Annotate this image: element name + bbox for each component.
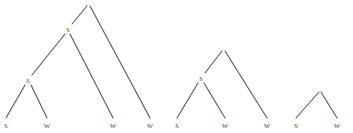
tree-branch [321,92,337,118]
tree-leaf-label: s [4,121,8,130]
tree-leaf-label: s [175,121,179,130]
tree-branch [32,34,65,75]
tree-branch [204,83,225,118]
tree-leaf-label: w [222,121,229,130]
tree-branches-layer [0,0,353,133]
tree-branch [70,34,113,118]
tree-leaf-label: s [294,121,298,130]
tree-branch [296,92,319,118]
tree-node-label: s [199,74,203,83]
tree-branch [205,51,222,73]
tree-leaf-label: w [264,121,271,130]
tree-branch [177,83,198,118]
tree-leaf-label: w [147,121,154,130]
tree-branch [225,51,267,118]
tree-branch [72,6,87,24]
tree-diagram-canvas: ssswwwsswwsw [0,0,353,133]
tree-branch [90,6,150,118]
tree-branch [6,85,25,118]
tree-leaf-label: w [110,121,117,130]
tree-leaf-label: w [44,121,51,130]
tree-leaf-label: w [334,121,341,130]
branch-edges-group [6,6,337,118]
tree-node-label: s [26,76,30,85]
tree-node-label: s [66,25,70,34]
tree-branch [31,85,47,118]
